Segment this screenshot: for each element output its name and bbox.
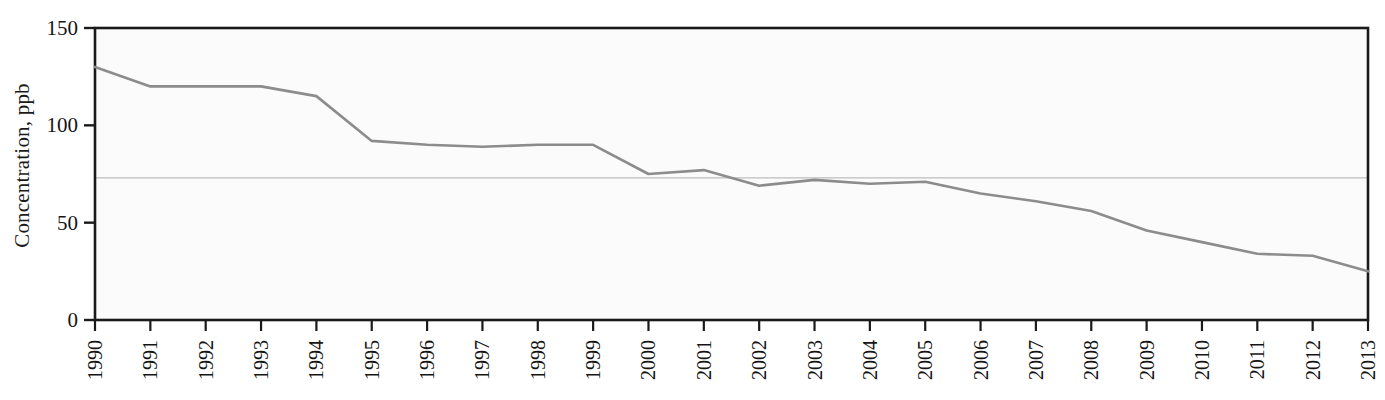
x-axis-tick-label: 1996 <box>416 340 438 380</box>
x-axis-tick-label: 2007 <box>1025 340 1047 380</box>
x-axis-tick-label: 1998 <box>527 340 549 380</box>
line-chart-plot: 050100150 199019911992199319941995199619… <box>0 0 1385 400</box>
x-axis-tick-label: 2001 <box>693 340 715 380</box>
x-axis-tick-label: 1999 <box>582 340 604 380</box>
y-axis-tick-label: 50 <box>57 211 78 235</box>
x-axis-tick-label: 1997 <box>471 340 493 380</box>
x-axis-tick-label: 1991 <box>139 340 161 380</box>
x-axis-tick-label: 1992 <box>195 340 217 380</box>
x-axis-tick-label: 2004 <box>859 340 881 380</box>
x-axis-tick-label: 2005 <box>914 340 936 380</box>
x-axis-tick-label: 1995 <box>361 340 383 380</box>
x-axis-tick-label: 2000 <box>637 340 659 380</box>
x-axis-tick-label: 2008 <box>1080 340 1102 380</box>
x-axis-tick-label: 2010 <box>1191 340 1213 380</box>
x-axis-tick-label: 1994 <box>305 340 327 380</box>
y-axis-tick-label: 150 <box>47 16 79 40</box>
y-axis-ticks: 050100150 <box>47 16 96 332</box>
x-axis-tick-label: 2011 <box>1246 340 1268 379</box>
x-axis-tick-label: 2012 <box>1302 340 1324 380</box>
chart-container: Concentration, ppb 050100150 19901991199… <box>0 0 1385 400</box>
y-axis-tick-label: 100 <box>47 113 79 137</box>
y-axis-tick-label: 0 <box>68 308 79 332</box>
plot-background <box>95 28 1368 320</box>
x-axis-tick-label: 2009 <box>1136 340 1158 380</box>
x-axis-tick-label: 2003 <box>804 340 826 380</box>
x-axis-tick-label: 2006 <box>970 340 992 380</box>
x-axis-tick-label: 1990 <box>84 340 106 380</box>
x-axis-tick-label: 1993 <box>250 340 272 380</box>
x-axis-tick-label: 2002 <box>748 340 770 380</box>
x-axis-ticks: 1990199119921993199419951996199719981999… <box>84 320 1379 380</box>
x-axis-tick-label: 2013 <box>1357 340 1379 380</box>
